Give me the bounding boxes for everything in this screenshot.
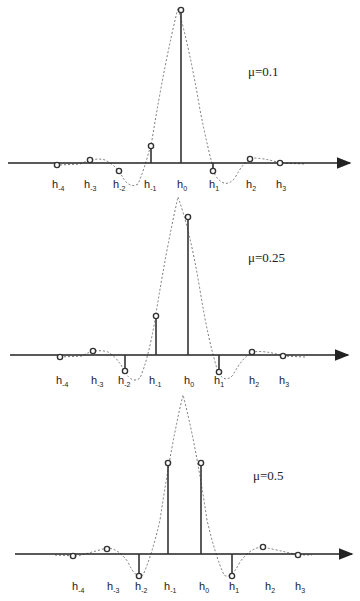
sample-label-h-3: h-3	[107, 580, 119, 594]
sample-label-h0: h0	[177, 178, 187, 192]
sample-marker-h-1	[148, 143, 153, 148]
sample-label-h-1: h-1	[164, 580, 176, 594]
sample-label-h3: h3	[276, 178, 286, 192]
interpolation-kernel-figure: h-4h-3h-2h-1h0h1h2h3μ=0.1 h-4h-3h-2h-1h0…	[0, 0, 360, 601]
sample-marker-h2	[260, 544, 265, 549]
sample-marker-h3	[277, 160, 282, 165]
sample-marker-h0	[178, 7, 183, 12]
mu-label: μ=0.25	[248, 250, 285, 265]
sample-marker-h-3	[104, 546, 109, 551]
sample-marker-h-1	[165, 460, 170, 465]
sample-label-h-1: h-1	[144, 178, 156, 192]
sample-marker-h0	[198, 460, 203, 465]
sample-label-h-3: h-3	[84, 178, 96, 192]
sample-label-h-3: h-3	[91, 374, 103, 388]
sample-label-h2: h2	[246, 178, 256, 192]
sample-label-h-2: h-2	[113, 178, 125, 192]
sample-label-h1: h1	[209, 178, 219, 192]
sample-marker-h-2	[136, 573, 141, 578]
panel-mu-0-1: h-4h-3h-2h-1h0h1h2h3μ=0.1	[8, 7, 350, 192]
sample-label-h3: h3	[279, 374, 289, 388]
kernel-curve	[55, 395, 312, 576]
panel-mu-0-5: h-4h-3h-2h-1h0h1h2h3μ=0.5	[15, 395, 352, 594]
sample-label-h-4: h-4	[72, 580, 84, 594]
sample-marker-h3	[295, 552, 300, 557]
sample-label-h-4: h-4	[52, 178, 64, 192]
panel-mu-0-25: h-4h-3h-2h-1h0h1h2h3μ=0.25	[10, 197, 348, 388]
sample-label-h0: h0	[199, 580, 209, 594]
sample-marker-h-4	[70, 553, 75, 558]
sample-label-h2: h2	[249, 374, 259, 388]
sample-marker-h-4	[54, 162, 59, 167]
sample-label-h-1: h-1	[149, 374, 161, 388]
kernel-curve	[60, 8, 305, 186]
sample-label-h1: h1	[229, 580, 239, 594]
sample-marker-h2	[249, 349, 254, 354]
sample-marker-h2	[247, 156, 252, 161]
mu-label: μ=0.5	[253, 468, 284, 483]
sample-marker-h-2	[122, 368, 127, 373]
sample-label-h-4: h-4	[56, 374, 68, 388]
sample-label-h3: h3	[295, 580, 305, 594]
sample-marker-h3	[280, 353, 285, 358]
kernel-curve	[60, 197, 305, 380]
mu-label: μ=0.1	[248, 64, 279, 79]
sample-marker-h-2	[116, 168, 121, 173]
sample-label-h0: h0	[184, 374, 194, 388]
sample-label-h-2: h-2	[118, 374, 130, 388]
sample-marker-h1	[210, 168, 215, 173]
sample-marker-h0	[185, 214, 190, 219]
sample-marker-h1	[229, 573, 234, 578]
sample-marker-h-3	[87, 157, 92, 162]
sample-label-h1: h1	[214, 374, 224, 388]
sample-marker-h-4	[57, 354, 62, 359]
sample-marker-h-1	[153, 313, 158, 318]
sample-marker-h-3	[90, 348, 95, 353]
sample-label-h2: h2	[265, 580, 275, 594]
sample-label-h-2: h-2	[135, 580, 147, 594]
